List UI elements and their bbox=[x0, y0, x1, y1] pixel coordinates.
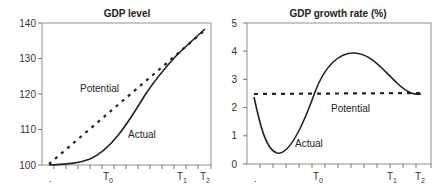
x-tick-label-t1: T1 bbox=[177, 171, 187, 184]
y-tick-label: 140 bbox=[19, 18, 36, 29]
x-tick-label-t1: T1 bbox=[387, 171, 397, 184]
y-tick-label: 2 bbox=[231, 102, 237, 113]
gdp-level-chart: GDP level 100 110 120 130 140 . T0 T1 T2 bbox=[19, 8, 211, 184]
x-tick-label-dot: . bbox=[254, 173, 257, 184]
potential-annotation: Potential bbox=[331, 103, 370, 114]
potential-line bbox=[254, 93, 421, 94]
x-tick-label-t0: T0 bbox=[313, 171, 323, 184]
y-axis-ticks bbox=[38, 23, 42, 165]
y-tick-label: 0 bbox=[231, 159, 237, 170]
y-tick-label: 1 bbox=[231, 130, 237, 141]
gdp-growth-chart: GDP growth rate (%) 0 1 2 3 4 5 . T0 T1 … bbox=[231, 8, 431, 184]
potential-annotation: Potential bbox=[80, 83, 119, 94]
y-tick-label: 100 bbox=[19, 160, 36, 171]
y-tick-label: 120 bbox=[19, 89, 36, 100]
chart-title: GDP growth rate (%) bbox=[289, 8, 386, 19]
x-tick-label-dot: . bbox=[49, 173, 52, 184]
y-tick-label: 130 bbox=[19, 53, 36, 64]
y-tick-label: 5 bbox=[231, 18, 237, 29]
actual-annotation: Actual bbox=[128, 129, 156, 140]
x-tick-label-t2: T2 bbox=[200, 171, 210, 184]
charts-canvas: GDP level 100 110 120 130 140 . T0 T1 T2 bbox=[0, 0, 442, 193]
y-tick-label: 110 bbox=[20, 124, 36, 135]
y-tick-label: 4 bbox=[231, 46, 237, 57]
x-tick-label-t0: T0 bbox=[103, 171, 113, 184]
y-tick-label: 3 bbox=[231, 74, 237, 85]
actual-line bbox=[49, 29, 205, 165]
actual-annotation: Actual bbox=[295, 138, 323, 149]
y-axis-ticks bbox=[243, 23, 247, 164]
x-tick-label-t2: T2 bbox=[415, 171, 425, 184]
plot-frame bbox=[42, 23, 211, 165]
chart-title: GDP level bbox=[104, 8, 151, 19]
x-axis-ticks bbox=[54, 165, 211, 169]
x-axis-ticks bbox=[260, 164, 431, 168]
